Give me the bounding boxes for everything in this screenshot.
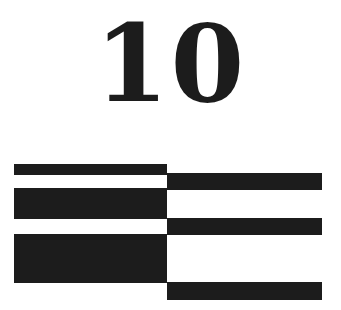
right-bar-3 xyxy=(167,282,322,300)
left-bar-1 xyxy=(14,164,167,175)
bar-diagram xyxy=(0,0,341,310)
left-bar-2 xyxy=(14,188,167,219)
right-bar-2 xyxy=(167,218,322,235)
left-bar-3 xyxy=(14,234,167,283)
right-bar-1 xyxy=(167,173,322,190)
